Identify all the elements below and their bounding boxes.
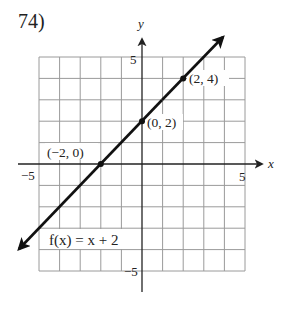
- point-label-neg2-0: (−2, 0): [47, 145, 84, 160]
- coordinate-graph: x y −5 5 5 −5 (−2, 0) (0, 2) (2, 4) f(x)…: [0, 0, 290, 313]
- point-label-0-2: (0, 2): [147, 115, 176, 130]
- x-tick-label-max: 5: [239, 169, 246, 184]
- x-axis-label: x: [267, 156, 274, 171]
- x-tick-label-min: −5: [21, 168, 35, 183]
- y-axis-label: y: [136, 16, 144, 31]
- y-tick-label-min: −5: [124, 264, 138, 279]
- point-2-4: [180, 75, 186, 81]
- y-tick-label-max: 5: [130, 52, 137, 67]
- point-0-2: [139, 118, 145, 124]
- function-label: f(x) = x + 2: [49, 232, 118, 249]
- function-line: [162, 37, 223, 100]
- point-label-2-4: (2, 4): [189, 71, 218, 86]
- point-neg2-0: [98, 161, 104, 167]
